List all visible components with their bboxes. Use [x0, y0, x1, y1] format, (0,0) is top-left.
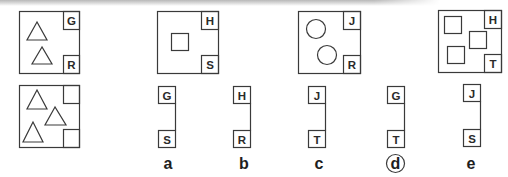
square-shape — [448, 47, 465, 64]
option-letter-bottom: S — [468, 133, 476, 145]
square-shape — [445, 17, 462, 34]
question-box-circles: J R — [299, 12, 361, 74]
option-label[interactable]: a — [164, 155, 173, 172]
square-shape — [470, 32, 487, 49]
corner-letter-bottom: T — [489, 58, 496, 70]
corner-square-top-empty — [64, 86, 80, 104]
corner-letter-bottom: R — [67, 59, 76, 71]
corner-letter-top: J — [349, 15, 355, 27]
corner-letter-top: H — [206, 15, 214, 27]
option-e[interactable]: J S e — [464, 85, 481, 173]
option-label[interactable]: c — [315, 155, 324, 172]
triangle-shape — [27, 90, 47, 109]
option-b[interactable]: H R b — [234, 87, 251, 173]
triangle-shape — [32, 47, 52, 64]
option-letter-bottom: T — [313, 134, 320, 146]
puzzle-figure: G R H S J R H T — [0, 0, 508, 177]
square-shape — [172, 34, 189, 51]
corner-letter-top: H — [489, 14, 497, 26]
option-label[interactable]: d — [391, 155, 401, 172]
option-letter-top: J — [314, 90, 320, 102]
question-box-square: H S — [158, 12, 219, 74]
option-label[interactable]: e — [467, 155, 476, 172]
option-letter-top: G — [392, 90, 401, 102]
corner-letter-top: G — [67, 15, 76, 27]
corner-letter-bottom: S — [206, 59, 214, 71]
example-box-top: G R — [20, 12, 80, 74]
option-label[interactable]: b — [239, 155, 249, 172]
option-letter-top: H — [238, 90, 246, 102]
option-letter-top: G — [163, 90, 172, 102]
corner-letter-bottom: R — [348, 59, 357, 71]
corner-square-bottom-empty — [64, 130, 80, 148]
triangle-shape — [27, 22, 47, 40]
option-letter-bottom: T — [392, 134, 399, 146]
example-box-bottom — [20, 86, 80, 148]
option-letter-top: J — [469, 88, 475, 100]
circle-shape — [307, 20, 326, 39]
triangle-shape — [45, 107, 66, 125]
question-box-squares: H T — [439, 11, 502, 73]
option-d[interactable]: G T d — [387, 87, 405, 173]
option-letter-bottom: S — [163, 134, 171, 146]
option-c[interactable]: J T c — [309, 87, 326, 173]
option-letter-bottom: R — [238, 134, 247, 146]
option-a[interactable]: G S a — [159, 87, 176, 173]
triangle-shape — [23, 122, 43, 142]
circle-shape — [318, 46, 337, 65]
